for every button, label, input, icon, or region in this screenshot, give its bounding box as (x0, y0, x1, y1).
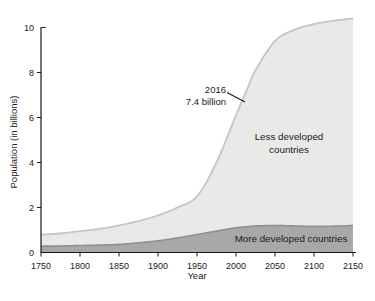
more-developed-label: More developed countries (229, 233, 353, 244)
annotation-leader-line (227, 93, 245, 103)
y-tick-labels: 0246810 (24, 23, 34, 258)
svg-text:2: 2 (29, 203, 34, 213)
svg-text:2100: 2100 (304, 261, 324, 271)
population-growth-figure: 175018001850190019502000205021002150 024… (0, 0, 375, 301)
svg-text:6: 6 (29, 113, 34, 123)
less-developed-label-line2: countries (228, 143, 350, 156)
y-axis-title: Population (in billions) (8, 96, 19, 189)
x-axis-title: Year (117, 270, 277, 281)
annotation-value: 7.4 billion (146, 96, 226, 108)
svg-text:8: 8 (29, 68, 34, 78)
annotation-2016: 2016 7.4 billion (146, 84, 226, 107)
svg-text:10: 10 (24, 23, 34, 33)
less-developed-label-line1: Less developed (228, 130, 350, 143)
svg-text:2150: 2150 (343, 261, 363, 271)
svg-text:0: 0 (29, 248, 34, 258)
svg-text:1750: 1750 (31, 261, 51, 271)
annotation-year: 2016 (146, 84, 226, 96)
svg-text:1800: 1800 (70, 261, 90, 271)
less-developed-label: Less developed countries (228, 130, 350, 156)
svg-text:4: 4 (29, 158, 34, 168)
